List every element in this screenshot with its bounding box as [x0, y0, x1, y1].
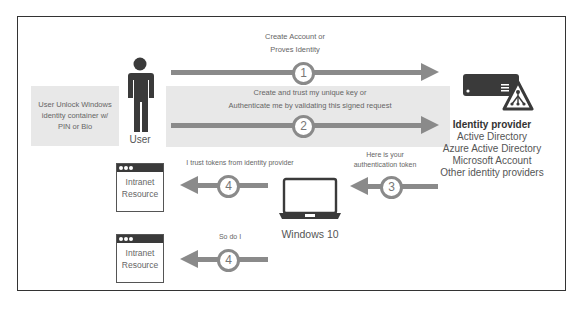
intranet-resource-2: Intranet Resource: [116, 234, 164, 283]
step-3-label-line-1: Here is your: [345, 150, 425, 160]
window-titlebar: [117, 235, 163, 243]
resource-2-line-2: Resource: [117, 259, 163, 271]
window-dot-icon: [129, 166, 133, 170]
resource-2-label: Intranet Resource: [117, 243, 163, 271]
window-dot-icon: [119, 237, 123, 241]
step-1-label-line-1: Create Account or: [230, 31, 360, 43]
unlock-note-line-2: identity container w/: [31, 110, 119, 121]
resource-1-label: Intranet Resource: [117, 172, 163, 200]
step-2-arrowhead: [421, 116, 439, 134]
unlock-note-line-1: User Unlock Windows: [31, 99, 119, 110]
idp-item-other: Other identity providers: [430, 167, 554, 179]
step-3-badge: 3: [380, 176, 403, 199]
window-dot-icon: [124, 237, 128, 241]
idp-item-azure-ad: Azure Active Directory: [440, 143, 544, 155]
identity-provider-title: Identity provider: [440, 119, 544, 130]
idp-item-microsoft-account: Microsoft Account: [440, 155, 544, 167]
step-3-label-line-2: authentication token: [345, 160, 425, 170]
window-dot-icon: [124, 166, 128, 170]
step-4a-badge: 4: [217, 175, 240, 198]
laptop-icon: [278, 177, 342, 221]
window-dot-icon: [119, 166, 123, 170]
step-1-arrowhead: [421, 63, 439, 81]
step-2-label-line-2: Authenticate me by validating this signe…: [180, 100, 440, 112]
directory-tree-icon: [502, 80, 534, 112]
user-icon: [124, 56, 156, 134]
resource-1-line-1: Intranet: [117, 176, 163, 188]
step-2-badge: 2: [292, 115, 315, 138]
resource-2-line-1: Intranet: [117, 247, 163, 259]
step-4a-label: I trust tokens from identity provider: [170, 157, 310, 169]
window-titlebar: [117, 164, 163, 172]
device-label: Windows 10: [270, 228, 350, 240]
step-4b-badge: 4: [217, 249, 240, 272]
intranet-resource-1: Intranet Resource: [116, 163, 164, 212]
resource-1-line-2: Resource: [117, 188, 163, 200]
step-1-badge: 1: [292, 62, 315, 85]
user-label: User: [120, 134, 160, 145]
step-4b-label: So do I: [200, 231, 260, 243]
idp-item-active-directory: Active Directory: [440, 131, 544, 143]
unlock-note-line-3: PIN or Bio: [31, 121, 119, 132]
window-dot-icon: [129, 237, 133, 241]
step-2-label-line-1: Create and trust my unique key or: [180, 87, 440, 99]
step-1-label-line-2: Proves Identity: [230, 44, 360, 56]
